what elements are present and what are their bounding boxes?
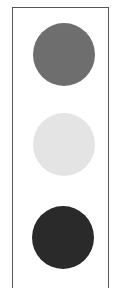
bottom-circle: dark gray circle [32, 206, 94, 269]
top-circle: medium gray circle [33, 23, 95, 86]
signal-frame: medium gray circle light gray circle dar… [12, 7, 109, 288]
middle-circle: light gray circle [33, 113, 95, 176]
middle-circle-label: light gray circle [33, 113, 34, 114]
top-circle-label: medium gray circle [33, 23, 34, 24]
bottom-circle-label: dark gray circle [32, 206, 33, 207]
